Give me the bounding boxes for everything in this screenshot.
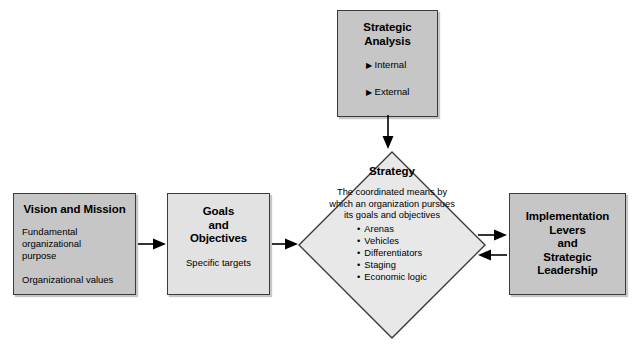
strategic-analysis-bullet-list: ▶Internal ▶External [366,59,410,113]
implementation-line5: Leadership [526,264,610,278]
arrow-goals-to-strategy [272,235,304,255]
goals-objectives-subtitle: Specific targets [186,257,251,269]
node-vision-and-mission[interactable]: Vision and Mission Fundamental organizat… [13,193,136,295]
node-implementation-levers[interactable]: Implementation Levers and Strategic Lead… [509,193,626,295]
vision-mission-line2: organizational [22,238,81,250]
strategy-element-list: Arenas Vehicles Differentiators Staging … [357,223,427,284]
diagram-canvas: Strategic Analysis ▶Internal ▶External V… [0,0,644,357]
strategy-item-staging: Staging [357,259,427,271]
strategy-item-arenas: Arenas [357,223,427,235]
vision-mission-values-line: Organizational values [22,274,113,286]
triangle-right-icon: ▶ [366,61,372,70]
strategy-diamond-content: Strategy The coordinated means by which … [297,164,487,293]
arrow-vision-to-goals [138,235,170,255]
goals-title-line2: and [190,219,247,233]
implementation-title: Implementation Levers and Strategic Lead… [526,210,610,278]
implementation-line1: Implementation [526,210,610,224]
bullet-item-internal: ▶Internal [366,59,410,72]
strategy-item-vehicles: Vehicles [357,235,427,247]
arrow-analysis-to-strategy [380,115,406,153]
implementation-line2: Levers [526,224,610,238]
implementation-line4: Strategic [526,251,610,265]
strategy-description: The coordinated means by which an organi… [297,187,487,222]
goals-objectives-title: Goals and Objectives [190,205,247,246]
strategy-title: Strategy [297,164,487,178]
node-strategy-diamond[interactable]: Strategy The coordinated means by which … [297,150,487,340]
bullet-item-internal-label: Internal [375,59,407,70]
triangle-right-icon: ▶ [366,88,372,97]
vision-mission-line3: purpose [22,250,81,262]
vision-mission-paragraph-1: Fundamental organizational purpose [22,226,81,262]
strategic-analysis-title-line2: Analysis [363,35,411,49]
goals-title-line1: Goals [190,205,247,219]
goals-title-line3: Objectives [190,232,247,246]
bullet-item-external-label: External [375,86,410,97]
node-strategic-analysis[interactable]: Strategic Analysis ▶Internal ▶External [337,10,438,117]
strategy-desc-line2: which an organization pursues [297,199,487,211]
implementation-line3: and [526,237,610,251]
strategic-analysis-title-line1: Strategic [363,21,411,35]
arrow-implementation-to-strategy [478,246,512,266]
node-goals-and-objectives[interactable]: Goals and Objectives Specific targets [167,193,270,295]
arrow-strategy-to-implementation [478,226,512,246]
vision-mission-line1: Fundamental [22,226,81,238]
strategy-desc-line3: its goals and objectives [297,210,487,222]
vision-mission-title: Vision and Mission [22,203,127,217]
strategic-analysis-title: Strategic Analysis [363,21,411,48]
strategy-item-differentiators: Differentiators [357,247,427,259]
strategy-desc-line1: The coordinated means by [297,187,487,199]
strategy-item-economic-logic: Economic logic [357,271,427,283]
bullet-item-external: ▶External [366,86,410,99]
